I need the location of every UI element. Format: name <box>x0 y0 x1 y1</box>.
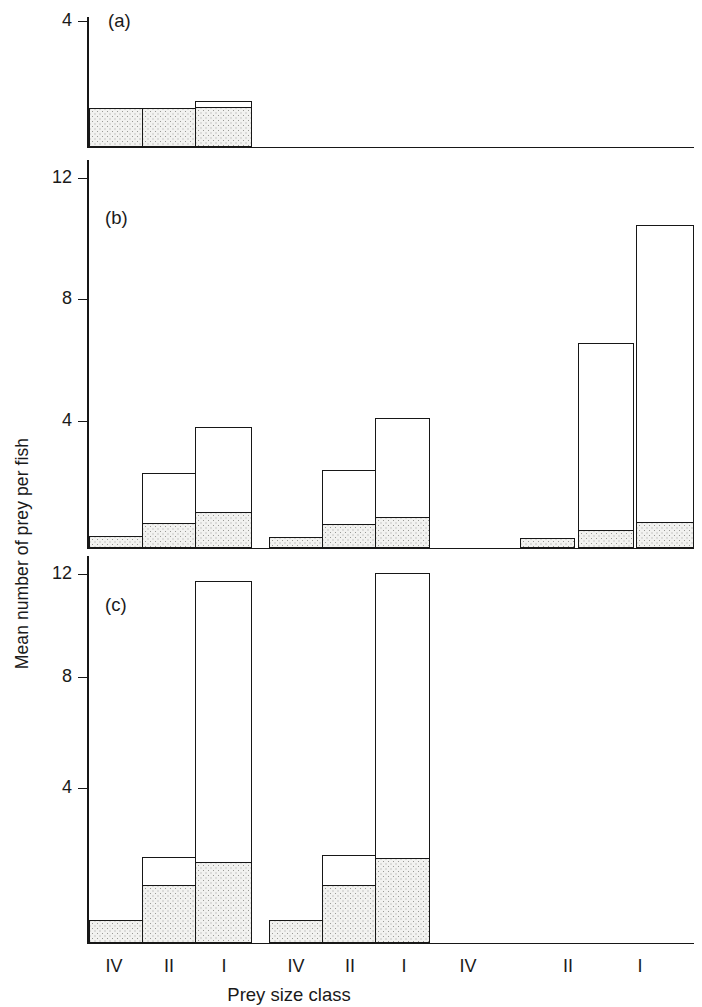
bar-c-g2-I-stippled <box>375 858 430 943</box>
x-label-g3-IV: IV <box>459 956 476 977</box>
panel-c-tick-8 <box>78 677 87 679</box>
x-label-g1-I: I <box>221 956 226 977</box>
panel-c-tick-label-8: 8 <box>20 666 72 687</box>
panel-c-label: (c) <box>105 594 127 616</box>
x-label-g1-IV: IV <box>105 956 122 977</box>
bar-c-g1-IV-stippled <box>89 920 143 944</box>
x-label-g3-I: I <box>637 956 642 977</box>
x-label-g3-II: II <box>563 956 573 977</box>
panel-c-y-axis <box>87 556 89 944</box>
x-label-g2-I: I <box>401 956 406 977</box>
panel-c-tick-12 <box>78 574 87 576</box>
x-axis-title: Prey size class <box>227 984 350 1006</box>
x-label-g1-II: II <box>164 956 174 977</box>
bar-c-g2-II-stippled <box>322 885 376 943</box>
panel-c-tick-label-12: 12 <box>20 563 72 584</box>
x-label-g2-IV: IV <box>287 956 304 977</box>
panel-c-tick-4 <box>78 788 87 790</box>
panel-c: 12 8 4 (c) <box>0 0 702 1007</box>
bar-c-g2-IV-stippled <box>269 920 323 944</box>
panel-c-tick-label-4: 4 <box>20 777 72 798</box>
figure-panel-chart: Mean number of prey per fish 4 (a) 12 8 … <box>0 0 702 1007</box>
bar-c-g1-I-stippled <box>195 862 252 943</box>
x-label-g2-II: II <box>345 956 355 977</box>
bar-c-g1-II-stippled <box>142 885 196 943</box>
